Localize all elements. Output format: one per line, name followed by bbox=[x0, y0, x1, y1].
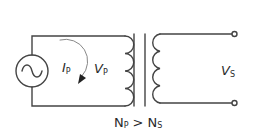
transformer-diagram: IP VP VS NP>NS bbox=[0, 0, 260, 137]
current-arrowhead-icon bbox=[78, 74, 86, 84]
primary-top-wire bbox=[32, 36, 125, 55]
label-vp: VP bbox=[94, 61, 108, 77]
label-vs: VS bbox=[221, 63, 235, 79]
secondary-coil bbox=[153, 34, 160, 103]
terminal-bottom-icon bbox=[232, 101, 237, 106]
label-turns-relation: NP>NS bbox=[114, 115, 162, 130]
label-ip: IP bbox=[62, 60, 71, 76]
terminal-top-icon bbox=[232, 32, 237, 37]
sine-wave-icon bbox=[22, 65, 42, 77]
primary-bottom-wire bbox=[32, 87, 125, 106]
primary-coil bbox=[125, 36, 134, 106]
